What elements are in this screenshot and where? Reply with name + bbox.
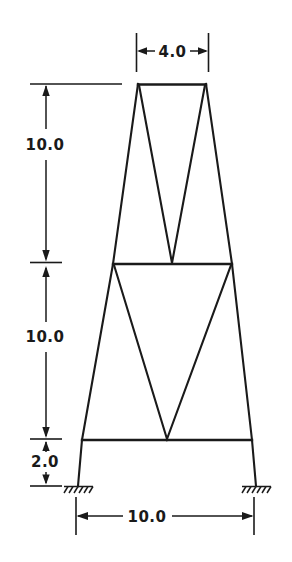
upper-panel-dimension: 10.0: [25, 85, 64, 262]
lower-dim-arrow-down-icon: [42, 427, 49, 438]
base-leg-arrow-up-icon: [42, 441, 49, 451]
left-support-hatch-6: [89, 487, 93, 494]
base-width-dimension-label: 10.0: [127, 508, 166, 526]
lower-panel-dimension: 10.0: [25, 266, 64, 438]
left-support-hatch-4: [79, 487, 83, 494]
lower-v-brace-member: [114, 265, 231, 439]
upper-dim-arrow-down-icon: [42, 250, 49, 262]
right-support-hatch-2: [247, 487, 251, 494]
upper-panel-dimension-label: 10.0: [25, 136, 64, 154]
right-support-hatch-5: [262, 487, 266, 494]
top-dim-arrow-left-icon: [137, 47, 147, 54]
left-support-hatch-2: [69, 487, 73, 494]
right-support-hatch-4: [257, 487, 261, 494]
base-dim-arrow-right-icon: [242, 512, 254, 520]
top-dim-arrow-right-icon: [198, 47, 208, 54]
left-leg-member: [78, 84, 138, 486]
top-width-dimension: 4.0: [137, 33, 209, 72]
right-support: [242, 487, 271, 494]
lower-panel-dimension-label: 10.0: [25, 328, 64, 346]
left-support-hatch-1: [64, 487, 68, 494]
base-leg-dimension-label: 2.0: [31, 453, 59, 471]
base-leg-arrow-down-icon: [42, 475, 49, 485]
lower-dim-arrow-up-icon: [42, 266, 49, 277]
base-leg-dimension: 2.0: [31, 441, 59, 485]
right-support-hatch-6: [267, 487, 271, 494]
truss-structure: [78, 84, 256, 486]
top-width-dimension-label: 4.0: [158, 43, 186, 61]
left-dimension-stack: 10.0 10.0 2.0: [25, 84, 122, 486]
base-dim-arrow-left-icon: [77, 512, 89, 520]
base-width-dimension: 10.0: [76, 497, 254, 535]
upper-v-brace-member: [139, 85, 205, 263]
left-support-hatch-5: [84, 487, 88, 494]
left-support: [64, 487, 93, 494]
truss-diagram-canvas: 4.0 10.0: [0, 0, 292, 562]
upper-dim-arrow-up-icon: [42, 85, 49, 96]
right-leg-member: [206, 84, 256, 486]
right-support-hatch-3: [252, 487, 256, 494]
truss-diagram-figure: 4.0 10.0: [0, 0, 292, 562]
left-support-hatch-3: [74, 487, 78, 494]
right-support-hatch-1: [242, 487, 246, 494]
